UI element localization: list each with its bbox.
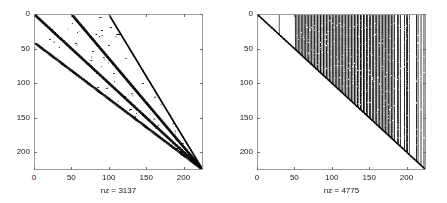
x-tick-mark: [146, 167, 147, 170]
y-tick-mark-right: [423, 83, 426, 84]
y-tick-mark-right: [423, 152, 426, 153]
x-tick-mark-top: [71, 14, 72, 17]
right-spy-plot: [257, 14, 426, 170]
x-tick-mark-top: [407, 14, 408, 17]
y-tick-mark: [34, 152, 37, 153]
y-tick-mark: [257, 14, 260, 15]
x-tick-mark: [184, 167, 185, 170]
y-tick-mark-right: [200, 83, 203, 84]
y-tick-mark: [257, 49, 260, 50]
panel-right: 050100150200050100150200 nz = 4775: [223, 0, 446, 203]
left-spy-plot: [34, 14, 203, 170]
y-tick-mark-right: [200, 152, 203, 153]
x-tick-label: 200: [177, 174, 190, 182]
spy-figure: 050100150200050100150200 nz = 3137 05010…: [0, 0, 447, 203]
x-tick-label: 0: [255, 174, 259, 182]
left-xlabel: nz = 3137: [101, 186, 136, 195]
y-tick-mark-right: [423, 14, 426, 15]
x-tick-label: 50: [290, 174, 299, 182]
x-tick-mark: [407, 167, 408, 170]
y-tick-mark-right: [200, 118, 203, 119]
y-tick-label: 0: [249, 10, 253, 18]
y-tick-label: 100: [17, 79, 30, 87]
panel-left: 050100150200050100150200 nz = 3137: [0, 0, 223, 203]
y-tick-label: 100: [240, 79, 253, 87]
x-tick-mark-top: [109, 14, 110, 17]
x-tick-mark: [109, 167, 110, 170]
x-tick-label: 100: [325, 174, 338, 182]
y-tick-mark-right: [423, 49, 426, 50]
y-tick-mark: [257, 118, 260, 119]
y-tick-mark: [34, 49, 37, 50]
y-tick-label: 50: [244, 45, 253, 53]
x-tick-mark-top: [332, 14, 333, 17]
x-tick-label: 150: [139, 174, 152, 182]
x-tick-mark-top: [146, 14, 147, 17]
x-tick-label: 100: [102, 174, 115, 182]
x-tick-label: 0: [32, 174, 36, 182]
x-tick-mark: [332, 167, 333, 170]
x-tick-label: 200: [400, 174, 413, 182]
x-tick-mark-top: [369, 14, 370, 17]
y-tick-mark-right: [200, 14, 203, 15]
x-tick-mark: [71, 167, 72, 170]
y-tick-mark: [34, 14, 37, 15]
left-spy-canvas: [35, 15, 202, 169]
y-tick-label: 0: [26, 10, 30, 18]
x-tick-label: 150: [362, 174, 375, 182]
x-tick-mark: [369, 167, 370, 170]
y-tick-label: 200: [17, 148, 30, 156]
y-tick-mark: [34, 83, 37, 84]
y-tick-mark: [257, 83, 260, 84]
x-tick-mark: [294, 167, 295, 170]
y-tick-mark-right: [200, 49, 203, 50]
x-tick-label: 50: [67, 174, 76, 182]
y-tick-mark: [257, 152, 260, 153]
x-tick-mark: [34, 167, 35, 170]
x-tick-mark-top: [184, 14, 185, 17]
y-tick-mark-right: [423, 118, 426, 119]
y-tick-label: 150: [240, 114, 253, 122]
y-tick-label: 50: [21, 45, 30, 53]
x-tick-mark-top: [294, 14, 295, 17]
right-xlabel: nz = 4775: [324, 186, 359, 195]
y-tick-label: 200: [240, 148, 253, 156]
right-spy-canvas: [258, 15, 425, 169]
y-tick-label: 150: [17, 114, 30, 122]
x-tick-mark: [257, 167, 258, 170]
y-tick-mark: [34, 118, 37, 119]
